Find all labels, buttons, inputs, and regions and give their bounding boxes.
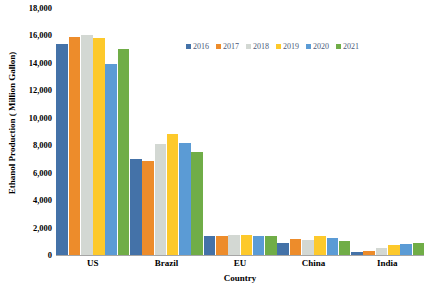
bar-china-2016[interactable]: [277, 243, 289, 255]
x-axis-tick-label-china: China: [277, 258, 351, 268]
legend-swatch-icon-2018: [246, 44, 251, 49]
legend-swatch-icon-2021: [336, 44, 341, 49]
bar-china-2021[interactable]: [339, 241, 351, 255]
bar-us-2016[interactable]: [56, 44, 68, 255]
y-axis-tick-label: 6,000: [14, 168, 52, 178]
bar-group-india: [351, 8, 425, 255]
bar-india-2020[interactable]: [400, 244, 412, 255]
legend-label: 2021: [343, 42, 359, 51]
bar-eu-2020[interactable]: [253, 236, 265, 255]
bar-brazil-2018[interactable]: [155, 144, 167, 255]
y-axis-tick-label: 16,000: [14, 30, 52, 40]
bar-india-2016[interactable]: [351, 252, 363, 255]
legend-item-2017[interactable]: 2017: [216, 42, 239, 51]
legend-item-2019[interactable]: 2019: [276, 42, 299, 51]
x-axis-title: Country: [56, 273, 424, 283]
y-axis-tick-label: 18,000: [14, 3, 52, 13]
bar-eu-2017[interactable]: [216, 236, 228, 255]
x-axis-tick-label-brazil: Brazil: [130, 258, 204, 268]
legend-label: 2019: [283, 42, 299, 51]
y-axis-tick-label: 8,000: [14, 140, 52, 150]
legend-label: 2020: [313, 42, 329, 51]
bar-us-2021[interactable]: [118, 49, 130, 255]
bar-eu-2016[interactable]: [204, 236, 216, 255]
legend-item-2016[interactable]: 2016: [186, 42, 209, 51]
y-axis-tick-label: 14,000: [14, 58, 52, 68]
x-axis-tick-labels: USBrazilEUChinaIndia: [56, 258, 424, 268]
bar-brazil-2016[interactable]: [130, 159, 142, 255]
bar-chart: Ethanol Production ( Million Gallon) 02,…: [0, 0, 430, 289]
bar-eu-2021[interactable]: [265, 236, 277, 255]
bar-group-us: [56, 8, 130, 255]
bar-eu-2019[interactable]: [241, 235, 253, 255]
bar-india-2019[interactable]: [388, 245, 400, 255]
legend-swatch-icon-2017: [216, 44, 221, 49]
bar-us-2017[interactable]: [69, 37, 81, 255]
bar-india-2018[interactable]: [376, 248, 388, 255]
bar-brazil-2019[interactable]: [167, 134, 179, 255]
y-axis-tick-label: 2,000: [14, 223, 52, 233]
chart-legend: 201620172018201920202021: [186, 42, 359, 51]
bar-brazil-2020[interactable]: [179, 143, 191, 255]
bar-china-2019[interactable]: [314, 236, 326, 255]
y-axis-tick-label: 0: [14, 250, 52, 260]
bar-china-2020[interactable]: [327, 238, 339, 255]
legend-item-2020[interactable]: 2020: [306, 42, 329, 51]
bar-us-2019[interactable]: [93, 38, 105, 255]
legend-swatch-icon-2020: [306, 44, 311, 49]
bar-china-2017[interactable]: [290, 239, 302, 255]
x-axis-tick-label-eu: EU: [203, 258, 277, 268]
bar-china-2018[interactable]: [302, 240, 314, 255]
y-axis-tick-label: 12,000: [14, 85, 52, 95]
y-axis-tick-labels: 02,0004,0006,0008,00010,00012,00014,0001…: [14, 8, 52, 255]
y-axis-tick-label: 10,000: [14, 113, 52, 123]
bar-brazil-2021[interactable]: [191, 152, 203, 255]
legend-swatch-icon-2019: [276, 44, 281, 49]
bar-us-2020[interactable]: [105, 64, 117, 255]
legend-item-2018[interactable]: 2018: [246, 42, 269, 51]
legend-label: 2018: [253, 42, 269, 51]
legend-label: 2016: [193, 42, 209, 51]
bar-brazil-2017[interactable]: [142, 161, 154, 255]
legend-swatch-icon-2016: [186, 44, 191, 49]
legend-label: 2017: [223, 42, 239, 51]
bar-india-2017[interactable]: [363, 251, 375, 255]
y-axis-tick-label: 4,000: [14, 195, 52, 205]
bar-india-2021[interactable]: [413, 243, 425, 255]
bar-us-2018[interactable]: [81, 35, 93, 255]
bar-eu-2018[interactable]: [228, 235, 240, 255]
x-axis-tick-label-india: India: [350, 258, 424, 268]
x-axis-tick-label-us: US: [56, 258, 130, 268]
legend-item-2021[interactable]: 2021: [336, 42, 359, 51]
